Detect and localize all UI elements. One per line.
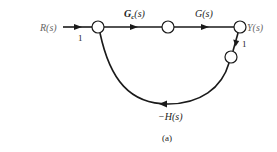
input-label: R(s)	[39, 22, 57, 34]
node-4	[225, 51, 237, 63]
node-1	[92, 21, 104, 33]
arrow-icon	[201, 24, 209, 30]
branch-input	[63, 24, 92, 30]
feedback-gain-label: −H(s)	[158, 111, 183, 123]
node-3-output	[234, 21, 246, 33]
node-2	[162, 21, 174, 33]
branch-output-tap	[233, 33, 239, 51]
gc-gain-label: Gc(s)	[124, 8, 146, 21]
input-gain-label: 1	[78, 33, 83, 43]
arrow-icon	[74, 24, 82, 30]
g-gain-label: G(s)	[195, 8, 213, 20]
figure-caption: (a)	[162, 133, 172, 143]
signal-flow-graph: R(s) 1 Gc(s) G(s) Y(s) 1 −H(s) (a)	[0, 0, 277, 152]
arrow-icon	[159, 101, 167, 108]
branch-feedback	[100, 33, 229, 108]
output-label: Y(s)	[247, 22, 264, 34]
tap-gain-label: 1	[242, 39, 247, 49]
branch-gc	[104, 24, 162, 30]
branch-g	[174, 24, 234, 30]
arrow-icon	[130, 24, 138, 30]
